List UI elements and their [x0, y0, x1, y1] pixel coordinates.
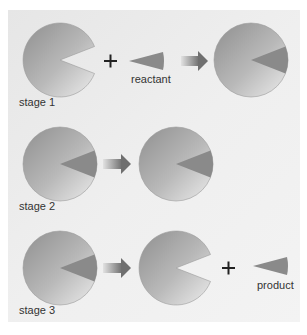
reaction-arrow-icon	[103, 154, 131, 174]
stage-1	[23, 23, 288, 97]
stage-3	[23, 231, 288, 305]
stage-2-label: stage 2	[19, 200, 55, 212]
enzyme-empty-site	[139, 231, 210, 305]
stage-3-label: stage 3	[19, 304, 55, 316]
plus-icon	[104, 55, 117, 68]
reaction-arrow-icon	[103, 258, 131, 278]
stage-2	[23, 127, 213, 201]
stage-1-label: stage 1	[19, 96, 55, 108]
reactant-label: reactant	[131, 73, 171, 85]
enzyme-empty-site	[23, 23, 94, 97]
plus-icon	[222, 262, 235, 275]
reactant-wedge	[129, 52, 164, 70]
product-wedge	[253, 257, 288, 275]
reaction-arrow-icon	[181, 51, 208, 71]
product-label: product	[257, 279, 294, 291]
